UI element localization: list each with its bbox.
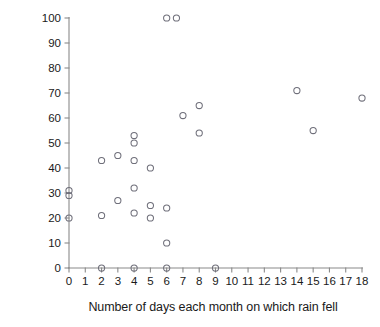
x-axis-tick-label: 2 bbox=[98, 275, 104, 287]
y-axis-tick-label: 50 bbox=[48, 137, 61, 149]
plot-area: 0102030405060708090100 01234567891011121… bbox=[0, 0, 380, 327]
x-axis-tick-label: 15 bbox=[307, 275, 320, 287]
data-point bbox=[164, 15, 170, 21]
x-axis-tick-label: 9 bbox=[212, 275, 218, 287]
x-axis-tick-label: 0 bbox=[66, 275, 72, 287]
y-axis-tick-label: 80 bbox=[48, 62, 61, 74]
x-axis-tick-label: 17 bbox=[339, 275, 352, 287]
y-axis: 0102030405060708090100 bbox=[42, 12, 70, 274]
data-point bbox=[131, 132, 137, 138]
data-point bbox=[147, 202, 153, 208]
x-axis-tick-label: 1 bbox=[82, 275, 88, 287]
x-axis-tick-label: 12 bbox=[258, 275, 271, 287]
y-axis-tick-label: 20 bbox=[48, 212, 61, 224]
data-points bbox=[66, 15, 365, 271]
data-point bbox=[359, 95, 365, 101]
y-axis-tick-label: 90 bbox=[48, 37, 61, 49]
x-axis-tick-label: 8 bbox=[196, 275, 202, 287]
x-axis-tick-label: 11 bbox=[242, 275, 254, 287]
data-point bbox=[131, 185, 137, 191]
data-point bbox=[115, 152, 121, 158]
x-axis-tick-label: 10 bbox=[225, 275, 238, 287]
x-axis-tick-label: 13 bbox=[274, 275, 287, 287]
y-axis-tick-label: 60 bbox=[48, 112, 61, 124]
data-point bbox=[131, 140, 137, 146]
data-point bbox=[180, 112, 186, 118]
data-point bbox=[147, 165, 153, 171]
x-axis-tick-label: 3 bbox=[115, 275, 121, 287]
y-axis-tick-label: 0 bbox=[55, 262, 61, 274]
x-axis-tick-label: 6 bbox=[163, 275, 169, 287]
data-point bbox=[98, 212, 104, 218]
data-point bbox=[164, 205, 170, 211]
data-point bbox=[131, 157, 137, 163]
x-axis-tick-label: 16 bbox=[323, 275, 336, 287]
data-point bbox=[131, 210, 137, 216]
x-axis-tick-label: 5 bbox=[147, 275, 153, 287]
y-axis-tick-label: 40 bbox=[48, 162, 61, 174]
data-point bbox=[294, 87, 300, 93]
y-axis-tick-label: 10 bbox=[48, 237, 61, 249]
data-point bbox=[196, 130, 202, 136]
data-point bbox=[98, 157, 104, 163]
data-point bbox=[147, 215, 153, 221]
data-point bbox=[115, 197, 121, 203]
data-point bbox=[196, 102, 202, 108]
scatter-plot-figure: % mantids that were green Number of days… bbox=[0, 0, 380, 327]
data-point bbox=[164, 240, 170, 246]
y-axis-tick-label: 100 bbox=[42, 12, 61, 24]
data-point bbox=[310, 127, 316, 133]
x-axis-tick-label: 4 bbox=[131, 275, 138, 287]
x-axis-tick-label: 18 bbox=[356, 275, 369, 287]
data-point bbox=[173, 15, 179, 21]
x-axis-tick-label: 7 bbox=[180, 275, 186, 287]
y-axis-tick-label: 70 bbox=[48, 87, 61, 99]
y-axis-tick-label: 30 bbox=[48, 187, 61, 199]
x-axis-tick-label: 14 bbox=[290, 275, 303, 287]
